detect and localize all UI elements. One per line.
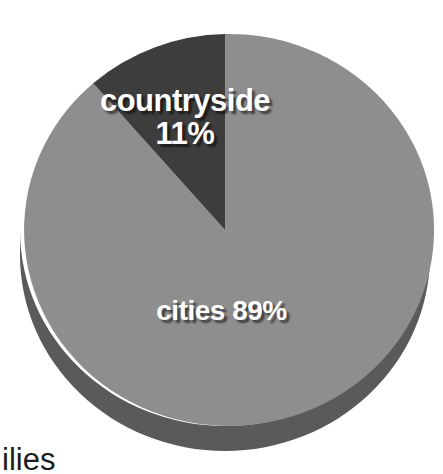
pie-slice-cities bbox=[24, 34, 434, 426]
pie-chart-figure: countryside 11% cities 89% ilies bbox=[0, 0, 443, 474]
clipped-page-text: ilies bbox=[2, 444, 55, 474]
pie-chart-graphic bbox=[0, 0, 443, 474]
